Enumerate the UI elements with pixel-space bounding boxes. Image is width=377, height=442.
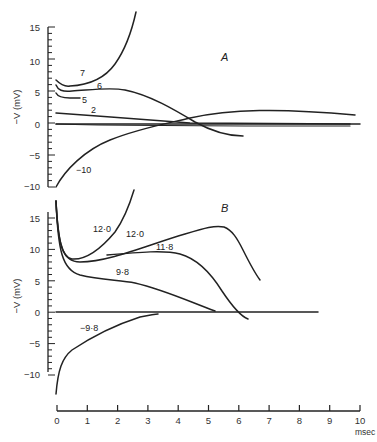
panel-label-a: A bbox=[220, 51, 228, 63]
x-tick-8: 8 bbox=[297, 415, 302, 426]
a-ytick-10: 10 bbox=[29, 56, 40, 67]
label-a-7: 7 bbox=[80, 68, 85, 78]
x-tick-7: 7 bbox=[266, 415, 271, 426]
curve-b-9-8 bbox=[56, 201, 215, 311]
panel-b-y-axis bbox=[48, 212, 55, 375]
curve-b-11-8 bbox=[107, 252, 248, 319]
label-b-11-8: 11·8 bbox=[156, 242, 173, 252]
panel-b-curves bbox=[56, 190, 318, 394]
b-ytick-neg10: −10 bbox=[24, 369, 40, 380]
curve-a-7 bbox=[56, 12, 136, 86]
b-ytick-10: 10 bbox=[29, 244, 40, 255]
x-tick-0: 0 bbox=[54, 415, 59, 426]
x-tick-2: 2 bbox=[115, 415, 120, 426]
curve-b-12-0 bbox=[56, 201, 260, 280]
panel-a-curves bbox=[56, 12, 360, 187]
b-ytick-15: 15 bbox=[29, 213, 40, 224]
b-ytick-5: 5 bbox=[35, 276, 40, 287]
figure: 15 10 5 0 −5 −10 −V (mV) A 7 6 5 2 −10 1… bbox=[0, 0, 377, 442]
a-ytick-0: 0 bbox=[35, 119, 40, 130]
label-b-12-0-upper: 12·0 bbox=[93, 224, 111, 234]
a-ytick-neg10: −10 bbox=[24, 181, 40, 192]
x-axis bbox=[57, 405, 360, 411]
label-b-9-8: 9·8 bbox=[116, 267, 129, 277]
a-y-axis-label: −V (mV) bbox=[11, 89, 22, 124]
curve-b-neg9-8 bbox=[56, 314, 158, 394]
x-tick-3: 3 bbox=[145, 415, 150, 426]
label-b-12-0: 12·0 bbox=[126, 229, 144, 239]
x-tick-10: 10 bbox=[355, 415, 366, 426]
curve-a-6 bbox=[56, 85, 243, 136]
x-tick-5: 5 bbox=[206, 415, 211, 426]
b-ytick-0: 0 bbox=[35, 307, 40, 318]
a-ytick-5: 5 bbox=[35, 87, 40, 98]
label-b-neg9-8: −9·8 bbox=[80, 323, 98, 333]
a-ytick-neg5: −5 bbox=[29, 150, 40, 161]
panel-label-b: B bbox=[221, 202, 228, 214]
x-tick-4: 4 bbox=[176, 415, 181, 426]
b-y-axis-label: −V (mV) bbox=[11, 278, 22, 313]
panel-a-y-axis bbox=[48, 27, 55, 187]
label-a-5: 5 bbox=[82, 95, 87, 105]
x-tick-9: 9 bbox=[327, 415, 332, 426]
x-axis-unit: msec bbox=[355, 427, 376, 437]
curve-a-2 bbox=[56, 113, 350, 124]
label-a-neg10: −10 bbox=[76, 165, 91, 175]
curve-a-5 bbox=[56, 93, 80, 98]
x-tick-6: 6 bbox=[236, 415, 241, 426]
label-a-2: 2 bbox=[91, 105, 96, 115]
x-tick-1: 1 bbox=[85, 415, 90, 426]
label-a-6: 6 bbox=[97, 81, 102, 91]
a-ytick-15: 15 bbox=[29, 22, 40, 33]
curve-a-neg10 bbox=[56, 110, 355, 187]
b-ytick-neg5: −5 bbox=[29, 338, 40, 349]
